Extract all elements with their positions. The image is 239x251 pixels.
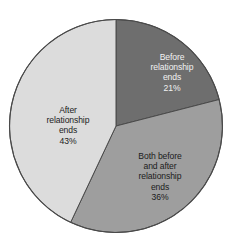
pie-slices: [10, 20, 223, 233]
pie-chart-figure: Before relationship ends 21% Both before…: [0, 0, 239, 251]
pie-chart-graphic: [0, 0, 239, 251]
